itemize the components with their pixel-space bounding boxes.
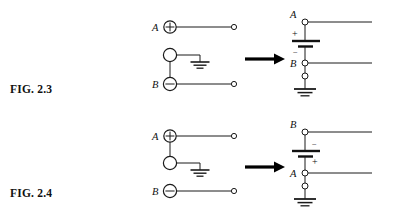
- fig-2-4-equivalent-circuit: B − + A: [289, 119, 372, 206]
- fig-2-3-source-port-mid[interactable]: [163, 48, 176, 61]
- fig-2-3-equiv-ground-node[interactable]: [302, 73, 308, 79]
- fig-2-4-source-circuit: A B: [151, 130, 237, 198]
- fig-2-3-equiv-minus-sign: −: [293, 47, 298, 57]
- fig-2-3-equiv-label-top: A: [289, 9, 297, 20]
- fig-2-3-equiv-plus-sign: +: [292, 28, 298, 39]
- fig-2-3-equiv-label-bottom: B: [290, 58, 297, 69]
- fig-2-4-caption: FIG. 2.4: [10, 187, 52, 199]
- circuit-diagram-canvas: FIG. 2.3 A B: [0, 0, 396, 224]
- fig-2-3-equivalent-circuit: A + − B: [289, 9, 372, 96]
- fig-2-3-transform-arrow: [245, 54, 285, 65]
- fig-2-3-source-output-top[interactable]: [231, 24, 236, 29]
- fig-2-4-source-output-bottom[interactable]: [231, 188, 236, 193]
- fig-2-3-source-circuit: A B: [151, 21, 237, 91]
- fig-2-4-equiv-node-b[interactable]: [302, 129, 308, 135]
- fig-2-4-equiv-label-top: B: [290, 119, 297, 130]
- fig-2-3-equiv-ground-icon: [294, 89, 316, 96]
- fig-2-4-source-port-mid[interactable]: [163, 156, 176, 169]
- fig-2-3-source-ground-icon: [191, 62, 210, 68]
- fig-2-4-equiv-node-a[interactable]: [302, 170, 308, 176]
- fig-2-4-equiv-ground-icon: [294, 199, 316, 206]
- fig-2-3-equiv-node-b[interactable]: [302, 60, 308, 66]
- fig-2-3-equiv-node-a[interactable]: [302, 19, 308, 25]
- fig-2-3-source-label-a: A: [151, 22, 159, 33]
- fig-2-3-caption: FIG. 2.3: [10, 83, 52, 95]
- fig-2-4-equiv-ground-node[interactable]: [302, 183, 308, 189]
- fig-2-4-equiv-plus-sign: +: [312, 156, 318, 167]
- figure-2-3-group: FIG. 2.3 A B: [10, 9, 372, 96]
- figure-2-4-group: FIG. 2.4 A B: [10, 119, 372, 206]
- fig-2-4-source-ground-icon: [191, 170, 210, 176]
- fig-2-4-source-label-b: B: [152, 186, 159, 197]
- fig-2-3-source-output-bottom[interactable]: [231, 81, 236, 86]
- figure-sheet: FIG. 2.3 A B: [0, 0, 396, 224]
- fig-2-4-transform-arrow: [245, 162, 285, 173]
- fig-2-3-source-label-b: B: [152, 79, 159, 90]
- fig-2-4-equiv-minus-sign: −: [312, 139, 317, 149]
- fig-2-4-source-label-a: A: [151, 131, 159, 142]
- fig-2-4-equiv-label-bottom: A: [289, 168, 297, 179]
- fig-2-4-source-output-top[interactable]: [231, 133, 236, 138]
